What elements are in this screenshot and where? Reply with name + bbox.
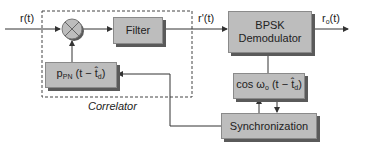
input-signal-label: r(t) [20,12,34,24]
carrier-oscillator-block: cos ωo (t − t̂d) [233,73,305,99]
filter-block: Filter [113,17,163,44]
carrier-label: cos ωo (t − t̂d) [236,78,302,94]
filter-label: Filter [126,24,150,37]
bpsk-label: BPSK [255,19,284,32]
output-signal-label: ro(t) [322,12,340,25]
synchronization-block: Synchronization [221,113,317,139]
correlator-label: Correlator [88,100,137,112]
bpsk-demodulator-block: BPSK Demodulator [228,11,312,53]
pn-code-generator-block: pPN (t − t̂d) [45,62,117,88]
pn-code-label: pPN (t − t̂d) [57,67,106,83]
correlator-receiver-diagram: r(t) r'(t) ro(t) Filter BPSK Demodulator… [0,0,366,150]
synchronization-label: Synchronization [230,120,308,133]
filtered-signal-label: r'(t) [198,12,214,24]
demodulator-label: Demodulator [239,32,302,45]
